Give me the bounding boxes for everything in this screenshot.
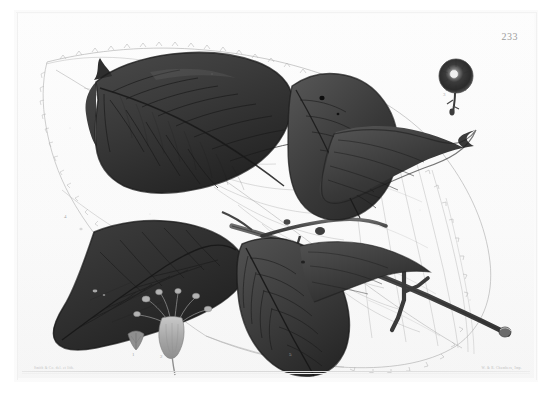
- artist-credit-left: Smith & Co. del. et lith.: [34, 366, 74, 370]
- branch-bud-lower-right: [499, 327, 511, 337]
- leaf-upper-left: [85, 52, 292, 193]
- plate-number: 233: [502, 31, 519, 42]
- figure-label-5: 5: [289, 352, 292, 357]
- botanical-plate: 233 Smith & Co. del. et lith. W. & R. Ch…: [0, 0, 554, 399]
- branch-node: [284, 219, 291, 225]
- figure-label-2: 2: [160, 354, 163, 359]
- leaf-lower-left: [53, 220, 245, 350]
- plate-bottom-rule-secondary: [22, 373, 530, 374]
- figure-label-1: 1: [132, 352, 135, 357]
- figure-label-4: 4: [64, 214, 67, 219]
- illustration-artwork: [0, 0, 554, 399]
- figure-label-3: 3: [443, 92, 446, 97]
- bract-detail: [128, 331, 144, 350]
- plate-bottom-rule: [22, 371, 530, 372]
- branch-node: [315, 227, 325, 235]
- fruit-head-detail: [439, 59, 473, 115]
- engraver-credit-right: W. & R. Chambers, Imp.: [482, 366, 522, 370]
